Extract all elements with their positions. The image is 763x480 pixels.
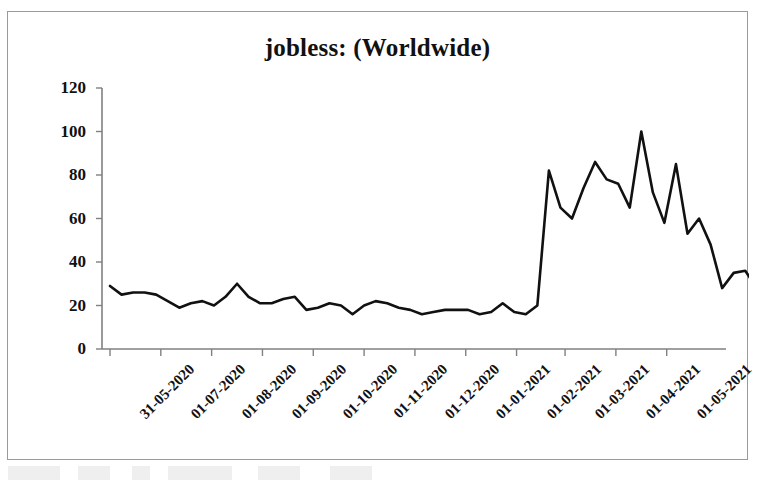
plot-area: 020406080100120 31-05-202001-07-202001-0… [8,12,749,461]
chart-figure-frame: jobless: (Worldwide) 020406080100120 31-… [7,11,748,460]
y-tick-label: 0 [36,339,86,359]
axes-group [96,88,726,356]
y-tick-label: 60 [36,209,86,229]
jobless-data-line [110,132,749,315]
scan-artifact-strip [0,466,763,480]
y-tick-label: 80 [36,165,86,185]
y-tick-label: 20 [36,296,86,316]
y-tick-label: 120 [36,78,86,98]
y-axis-ticks [96,88,102,349]
x-axis-ticks [110,349,667,356]
y-tick-label: 40 [36,252,86,272]
y-tick-label: 100 [36,122,86,142]
